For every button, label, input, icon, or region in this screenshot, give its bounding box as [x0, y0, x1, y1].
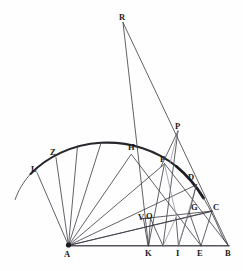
point-label-F: F: [160, 155, 165, 164]
chord-h-e: [132, 155, 202, 246]
geometry-figure: R P H Z F L D C G V O A K I E B: [0, 0, 243, 271]
point-label-V: V: [138, 213, 144, 222]
point-label-I: I: [176, 249, 179, 258]
point-label-D: D: [188, 173, 194, 182]
point-label-B: B: [225, 249, 231, 258]
ray-a-l: [37, 173, 69, 246]
point-label-O: O: [146, 212, 153, 221]
point-label-L: L: [31, 165, 37, 174]
point-label-H: H: [128, 143, 135, 152]
segment-g2-e: [189, 212, 201, 246]
point-label-R: R: [119, 13, 125, 22]
point-label-Z: Z: [50, 148, 56, 157]
point-label-E: E: [197, 249, 203, 258]
point-label-C: C: [213, 203, 219, 212]
segment-f-e: [165, 164, 177, 217]
segment-p-down: [170, 131, 178, 163]
arc-left-tail: [15, 174, 30, 200]
ray-a-z: [56, 158, 69, 246]
segment-g-i2: [176, 218, 179, 246]
line-r-k: [123, 23, 149, 246]
point-label-P: P: [175, 122, 180, 131]
vertex-a-dot: [66, 242, 71, 247]
segment-o-i: [151, 219, 164, 246]
segment-e-c: [201, 211, 212, 246]
point-label-A: A: [64, 250, 70, 259]
point-label-G: G: [191, 203, 198, 212]
point-label-K: K: [145, 249, 152, 258]
geometry-canvas: [0, 0, 243, 271]
